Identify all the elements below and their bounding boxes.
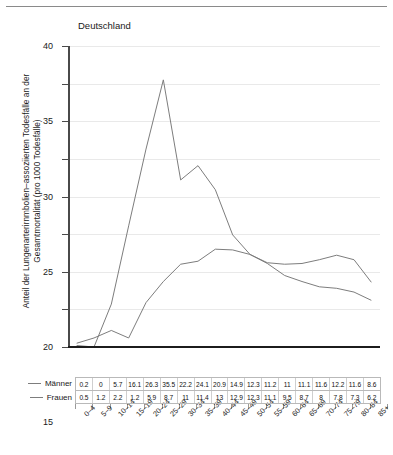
series-line-männer [77,80,372,347]
y-tick-label: 40 [43,41,53,51]
table-cell: 20.9 [212,378,229,390]
table-cell: 8.7 [296,391,313,403]
table-cell: 8.6 [364,378,380,390]
chart-title: Deutschland [78,20,131,31]
chart-legend: MännerFrauen [8,377,75,404]
x-axis-line [68,346,380,348]
table-cell: 7.3 [347,391,364,403]
table-cell: 12.9 [228,391,245,403]
table-row: 0.51.22.21.25.98.71111.41312.912.311.19.… [76,391,380,403]
legend-label: Männer [45,379,72,388]
series-lines [68,46,380,347]
table-cell: 12.2 [330,378,347,390]
table-row: 0.205.716.126.335.522.224.120.914.912.31… [76,378,380,391]
y-tick-label: 25 [43,267,53,277]
y-tick-label: 35 [43,116,53,126]
y-tick-label: 20 [43,342,53,352]
table-cell: 6.2 [364,391,380,403]
table-cell: 11.6 [347,378,364,390]
y-axis-title: Anteil der Lungenarterirnmbolien–assozii… [21,41,43,341]
legend-item-männer: Männer [8,377,75,391]
table-cell: 2.2 [110,391,127,403]
table-cell: 26.3 [144,378,161,390]
table-cell: 7.8 [330,391,347,403]
legend-item-frauen: Frauen [8,391,75,405]
table-cell: 11 [279,378,296,390]
x-axis-labels: 0–45–910–1415–1920–2425–2930–3435–3940–4… [68,408,388,454]
table-cell: 0 [93,378,110,390]
table-cell: 24.1 [195,378,212,390]
legend-label: Frauen [47,393,72,402]
table-cell: 22.2 [178,378,195,390]
legend-line-icon [28,383,41,384]
table-cell: 12.3 [245,391,262,403]
table-cell: 8 [313,391,330,403]
data-table: 0.205.716.126.335.522.224.120.914.912.31… [75,377,381,404]
table-cell: 11.4 [195,391,212,403]
table-cell: 8.7 [161,391,178,403]
table-cell: 14.9 [228,378,245,390]
legend-line-icon [30,397,43,398]
top-divider [6,6,387,7]
table-cell: 9.5 [279,391,296,403]
table-cell: 5.7 [110,378,127,390]
plot-area: 0510152025303540 [68,46,380,347]
table-cell: 12.3 [245,378,262,390]
table-cell: 11.1 [262,391,279,403]
table-cell: 11.6 [313,378,330,390]
table-cell: 1.2 [127,391,144,403]
y-tick-label: 30 [43,192,53,202]
table-cell: 1.2 [93,391,110,403]
table-cell: 5.9 [144,391,161,403]
table-cell: 13 [212,391,229,403]
y-tick-label: 15 [43,417,53,427]
table-cell: 11.1 [296,378,313,390]
table-cell: 16.1 [127,378,144,390]
table-cell: 0.5 [76,391,93,403]
table-cell: 0.2 [76,378,93,390]
table-cell: 35.5 [161,378,178,390]
table-cell: 11.2 [262,378,279,390]
table-cell: 11 [178,391,195,403]
